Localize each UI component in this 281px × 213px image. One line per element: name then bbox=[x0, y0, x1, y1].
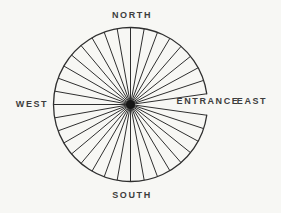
label-south: SOUTH bbox=[112, 190, 152, 200]
center-hub-dot bbox=[126, 100, 135, 109]
label-north: NORTH bbox=[112, 10, 152, 20]
label-west: WEST bbox=[16, 99, 48, 109]
spoke-line bbox=[131, 105, 199, 142]
label-east: EAST bbox=[237, 96, 267, 106]
label-entrance: ENTRANCE bbox=[177, 96, 240, 106]
paper-background: NORTH SOUTH WEST ENTRANCE EAST bbox=[0, 0, 281, 213]
